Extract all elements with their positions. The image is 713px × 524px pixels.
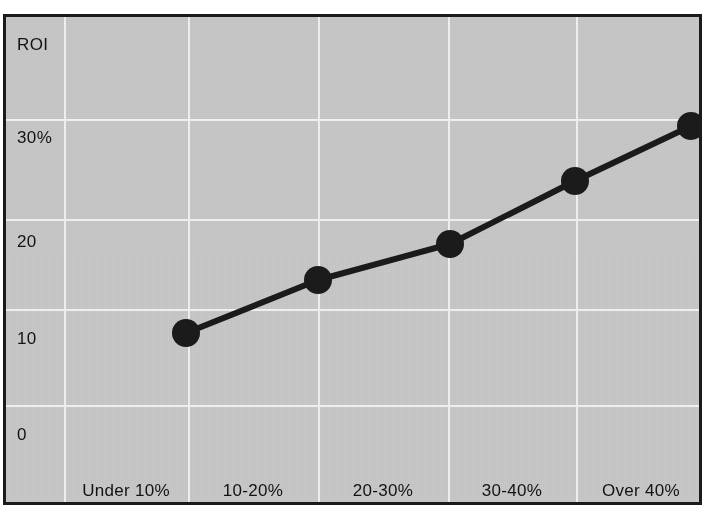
plot-area: ROI 30% 20 10 0 Under 10% 10-20% 20-30% … <box>3 14 702 505</box>
roi-line-chart: ROI 30% 20 10 0 Under 10% 10-20% 20-30% … <box>0 0 713 524</box>
data-point-marker <box>561 167 589 195</box>
data-point-marker <box>436 230 464 258</box>
data-series-layer <box>6 17 702 505</box>
roi-series-markers <box>172 112 702 347</box>
data-point-marker <box>677 112 702 140</box>
data-point-marker <box>172 319 200 347</box>
roi-series-line <box>186 126 691 333</box>
data-point-marker <box>304 266 332 294</box>
